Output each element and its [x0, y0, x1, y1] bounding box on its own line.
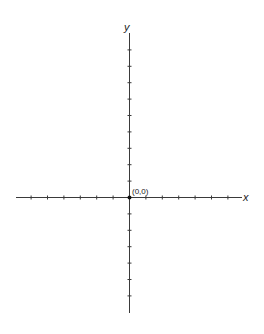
y-axis-label: y: [123, 21, 131, 33]
coordinate-plane: (0,0) x y: [0, 0, 264, 334]
origin-point: [128, 196, 132, 200]
x-axis-label: x: [242, 191, 249, 203]
origin-label: (0,0): [132, 187, 149, 196]
